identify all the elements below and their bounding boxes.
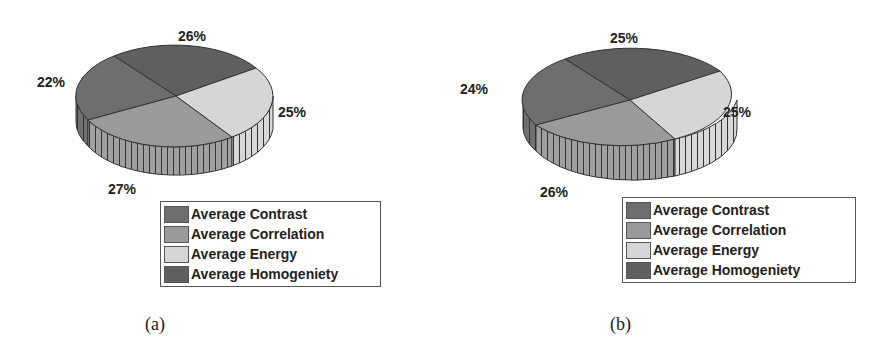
pie-label-correlation: 27% [108, 181, 137, 197]
pie-label-homogeniety: 25% [610, 30, 639, 46]
pie-label-contrast: 22% [37, 74, 66, 90]
chart-panel-b: 25% 24% 25% 26% Average Contrast Average… [440, 0, 887, 355]
legend-label: Average Contrast [653, 202, 769, 218]
legend-swatch-energy [626, 242, 651, 259]
pie-label-contrast: 24% [460, 81, 489, 97]
legend-item-contrast: Average Contrast [626, 200, 852, 220]
legend-swatch-energy [164, 246, 189, 263]
pie-label-energy: 25% [723, 104, 752, 120]
legend-swatch-contrast [164, 206, 189, 223]
pie-label-homogeniety: 26% [178, 28, 207, 44]
legend-b: Average Contrast Average Correlation Ave… [622, 197, 856, 283]
legend-swatch-correlation [626, 222, 651, 239]
legend-item-contrast: Average Contrast [164, 204, 377, 224]
caption-a: (a) [145, 314, 165, 335]
legend-swatch-homogeniety [164, 266, 189, 283]
legend-item-homogeniety: Average Homogeniety [164, 264, 377, 284]
legend-swatch-homogeniety [626, 262, 651, 279]
legend-item-correlation: Average Correlation [164, 224, 377, 244]
legend-label: Average Homogeniety [653, 262, 800, 278]
legend-item-correlation: Average Correlation [626, 220, 852, 240]
legend-item-energy: Average Energy [164, 244, 377, 264]
legend-label: Average Correlation [653, 222, 786, 238]
legend-label: Average Homogeniety [191, 266, 338, 282]
legend-label: Average Correlation [191, 226, 324, 242]
pie-label-energy: 25% [278, 104, 307, 120]
caption-b: (b) [610, 314, 631, 335]
legend-label: Average Energy [653, 242, 759, 258]
pie-label-correlation: 26% [540, 184, 569, 200]
legend-item-homogeniety: Average Homogeniety [626, 260, 852, 280]
legend-swatch-contrast [626, 202, 651, 219]
legend-swatch-correlation [164, 226, 189, 243]
legend-label: Average Energy [191, 246, 297, 262]
legend-a: Average Contrast Average Correlation Ave… [160, 201, 381, 287]
chart-panel-a: 26% 22% 25% 27% Average Contrast Average… [0, 0, 440, 355]
legend-label: Average Contrast [191, 206, 307, 222]
legend-item-energy: Average Energy [626, 240, 852, 260]
